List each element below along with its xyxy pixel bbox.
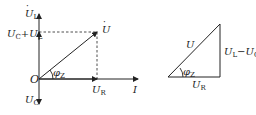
origin-label: O [30,73,39,86]
phasor-and-voltage-triangle-diagram: UL · UC+UL U · O φZ UR I UC U φZ UR UL−U… [0,0,256,115]
hypotenuse-u-label: U [186,39,195,50]
triangle-shape [168,24,220,77]
u-dot: · [103,17,106,27]
resultant-vector-u [39,32,97,79]
triangle-ur-label: UR [192,79,206,92]
ur-label: UR [92,84,106,97]
current-label: I [132,84,138,95]
phasor-diagram: UL · UC+UL U · O φZ UR I UC [7,1,138,107]
voltage-triangle: U φZ UR UL−UC [168,24,256,92]
phi-z-label: φZ [53,67,65,80]
ul-dot: · [26,1,29,11]
uc-label: UC [25,94,39,107]
uc-plus-ul-label: UC+UL [7,28,43,41]
ul-minus-uc-label: UL−UC [224,46,256,59]
